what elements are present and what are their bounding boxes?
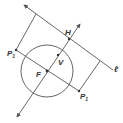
point-v [57, 54, 59, 56]
axis-line [17, 24, 80, 117]
point-h [68, 38, 70, 40]
label-p1-lower-sub: 1 [85, 96, 88, 102]
point-p1-upper [15, 49, 17, 51]
perpendicular-upper [16, 14, 36, 50]
diagram-canvas: H V F ℓ P1 P1 [0, 0, 123, 123]
label-p1-upper: P1 [7, 49, 15, 59]
perpendicular-lower [79, 61, 100, 91]
label-l: ℓ [114, 65, 119, 74]
line-l [24, 5, 113, 70]
label-p1-upper-sub: 1 [12, 53, 15, 59]
label-p1-lower: P1 [80, 92, 88, 102]
label-h: H [65, 28, 71, 37]
label-v: V [58, 58, 64, 67]
label-f: F [36, 70, 42, 79]
point-f [46, 70, 49, 73]
